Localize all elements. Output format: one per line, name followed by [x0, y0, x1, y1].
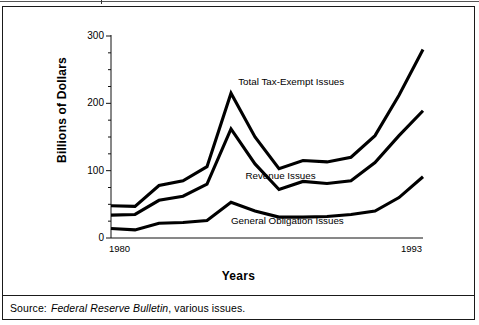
- series-label-0: Total Tax-Exempt Issues: [238, 76, 344, 87]
- x-tick-label-1980: 1980: [109, 244, 130, 254]
- source-note-row: Source:Federal Reserve Bulletin, various…: [3, 296, 474, 320]
- source-note-publication: Federal Reserve Bulletin: [47, 302, 168, 314]
- series-label-1: Revenue Issues: [245, 170, 315, 181]
- source-note: Source:Federal Reserve Bulletin, various…: [3, 302, 245, 314]
- y-tick-label-200: 200: [70, 98, 104, 108]
- series-label-2: General Obligation Issues: [231, 215, 344, 226]
- chart-tick-marks: [106, 36, 111, 238]
- page-top-rule: [0, 1, 479, 2]
- source-note-label: Source:: [10, 302, 47, 314]
- y-tick-label-300: 300: [70, 31, 104, 41]
- y-axis-title: Billions of Dollars: [55, 45, 69, 175]
- x-axis-title: Years: [3, 269, 474, 283]
- page-top-rule-tick: [101, 0, 102, 4]
- x-tick-label-1993: 1993: [401, 244, 422, 254]
- source-note-suffix: , various issues.: [168, 302, 245, 314]
- y-tick-label-0: 0: [70, 233, 104, 243]
- chart-plot-region: Billions of Dollars Years 0100200300 198…: [3, 7, 474, 295]
- y-tick-label-100: 100: [70, 166, 104, 176]
- figure-container: Billions of Dollars Years 0100200300 198…: [2, 6, 475, 320]
